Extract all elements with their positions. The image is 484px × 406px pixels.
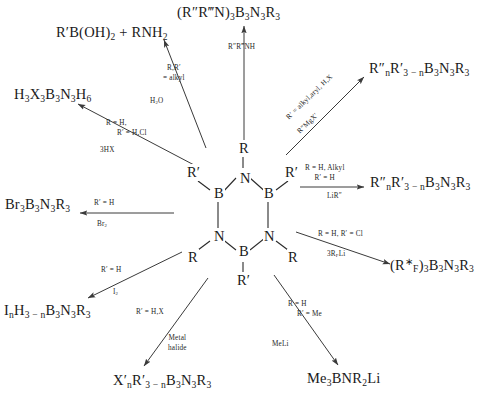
reagent-iodination: I2 (113, 288, 118, 298)
product-protonolysis: H3X3B3N3H6 (14, 86, 91, 104)
condition-metal-halide: R′ = H,X (136, 308, 164, 318)
product-organolithium: R″nR′3 − nB3N3R3 (370, 174, 470, 192)
reagent-methyllithium: MeLi (272, 340, 289, 350)
condition-organolithium: R = H, Alkyl R′ = H (305, 164, 345, 183)
ring-atom-b-right: B (263, 185, 275, 202)
ring-atom-n-top: N (239, 170, 251, 187)
product-grignard: R″nR′3 − nB3N3R3 (369, 60, 469, 78)
substituent-rprime-left: R′ (186, 164, 201, 181)
condition-iodination: R′ = H (101, 266, 121, 276)
ring-atom-n-left: N (213, 228, 225, 245)
substituent-r-lowerright: R (287, 249, 299, 266)
product-bromination: Br3B3N3R3 (5, 196, 70, 214)
condition-fluoroalkyl: R = H, R′ = Cl (318, 230, 363, 240)
reagent-fluoroalkyl: 3RFLi (327, 250, 345, 260)
condition-methyllithium: R = H R′ = Me (288, 300, 322, 319)
arrow-hydrolysis (164, 40, 206, 148)
product-fluoroalkyl: (R∗F)3B3N3R3 (390, 256, 474, 274)
ring-atom-n-right: N (263, 228, 275, 245)
reagent-metal-halide: Metal halide (168, 334, 187, 353)
product-iodination: InH3 − nB3N3R3 (4, 302, 91, 320)
substituent-rprime-bottom: R′ (236, 272, 251, 289)
reagent-organolithium: LiR″ (327, 192, 342, 202)
product-metal-halide: X′nR′3 − nB3N3R3 (113, 372, 211, 390)
reagent-protonolysis: 3HX (100, 146, 115, 156)
borazine-reaction-scheme: N B B N N B R R′ R′ R R R′ R′B(OH)2 + RN… (0, 0, 484, 406)
substituent-rprime-right: R′ (284, 164, 299, 181)
substituent-r-top: R (238, 140, 250, 157)
reagent-hydrolysis: H2O (150, 97, 163, 107)
product-amination: (R″R‴N)3B3N3R3 (177, 4, 280, 22)
product-hydrolysis: R′B(OH)2 + RNH2 (56, 24, 168, 42)
condition-bromination: R′ = H (94, 199, 114, 209)
product-methyllithium: Me3BNR2Li (307, 370, 380, 388)
ring-atom-b-bottom: B (238, 243, 250, 260)
condition-protonolysis: R = H, R′ = H,Cl (106, 119, 147, 138)
substituent-r-lowerleft: R (187, 249, 199, 266)
reagent-bromination: Br2 (97, 220, 107, 230)
arrow-methyllithium (274, 275, 338, 365)
ring-atom-b-left: B (213, 185, 225, 202)
condition-hydrolysis: R,R′ = alkyl (163, 64, 185, 83)
reagent-amination: R″R‴NH (228, 43, 255, 53)
